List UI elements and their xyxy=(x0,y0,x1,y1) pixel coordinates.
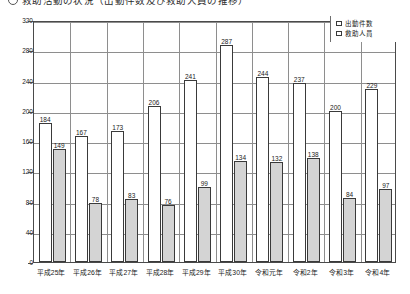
bar-value-label: 173 xyxy=(112,124,123,131)
bar-rescue: 76 xyxy=(162,205,175,262)
bar-value-label: 229 xyxy=(366,82,377,89)
legend-item[interactable]: 救助人員 xyxy=(336,29,392,38)
x-tick-label: 平成27年 xyxy=(106,269,142,277)
bar-group: 184149 xyxy=(34,22,70,262)
bar-dispatch: 184 xyxy=(39,123,52,262)
legend-swatch-dispatch-icon xyxy=(336,21,342,27)
x-tick-label: 平成30年 xyxy=(215,269,251,277)
bar-value-label: 287 xyxy=(221,38,232,45)
bar-value-label: 134 xyxy=(235,154,246,161)
x-tick-label: 令和元年 xyxy=(251,269,287,277)
bar-value-label: 241 xyxy=(185,73,196,80)
legend-swatch-rescue-icon xyxy=(336,31,342,37)
legend: 出動件数救助人員 xyxy=(330,16,396,42)
x-tick-label: 令和3年 xyxy=(323,269,359,277)
legend-item[interactable]: 出動件数 xyxy=(336,19,392,28)
plot-area: 1841491677817383206762419928713424413223… xyxy=(33,21,396,263)
bar-group: 24199 xyxy=(179,22,215,262)
x-tick-label: 平成26年 xyxy=(69,269,105,277)
bar-value-label: 200 xyxy=(330,104,341,111)
bar-value-label: 84 xyxy=(346,191,353,198)
bar-value-label: 149 xyxy=(54,142,65,149)
bar-dispatch: 206 xyxy=(148,106,161,262)
legend-label: 救助人員 xyxy=(345,30,373,37)
bar-group: 17383 xyxy=(107,22,143,262)
bar-value-label: 206 xyxy=(149,99,160,106)
bar-value-label: 78 xyxy=(92,196,99,203)
bar-value-label: 244 xyxy=(258,70,269,77)
y-axis: 04080120160200240280320 xyxy=(0,0,33,294)
bar-value-label: 184 xyxy=(40,116,51,123)
bar-rescue: 83 xyxy=(125,199,138,262)
bar-dispatch: 287 xyxy=(220,45,233,262)
x-tick-label: 令和2年 xyxy=(287,269,323,277)
legend-label: 出動件数 xyxy=(345,20,373,27)
bar-value-label: 83 xyxy=(128,192,135,199)
bar-rescue: 97 xyxy=(379,189,392,262)
page-title-text: 救助活動の状況（出動件数及び救助人員の推移） xyxy=(22,0,249,6)
bar-value-label: 99 xyxy=(201,180,208,187)
x-axis: 平成25年平成26年平成27年平成28年平成29年平成30年令和元年令和2年令和… xyxy=(33,264,396,288)
bar-dispatch: 229 xyxy=(365,89,378,262)
bar-dispatch: 200 xyxy=(329,111,342,262)
bar-group: 20084 xyxy=(324,22,360,262)
bar-value-label: 97 xyxy=(382,182,389,189)
bar-rescue: 149 xyxy=(53,149,66,262)
bar-dispatch: 237 xyxy=(293,83,306,262)
x-tick-label: 平成28年 xyxy=(142,269,178,277)
bar-dispatch: 173 xyxy=(111,131,124,262)
x-tick-label: 平成29年 xyxy=(178,269,214,277)
bar-rescue: 78 xyxy=(89,203,102,262)
bar-value-label: 167 xyxy=(76,129,87,136)
bar-group: 237138 xyxy=(288,22,324,262)
bar-dispatch: 167 xyxy=(75,136,88,262)
bar-dispatch: 244 xyxy=(256,77,269,262)
bar-group: 16778 xyxy=(70,22,106,262)
page-title: 救助活動の状況（出動件数及び救助人員の推移） xyxy=(8,0,403,8)
bar-dispatch: 241 xyxy=(184,80,197,262)
bar-rescue: 134 xyxy=(234,161,247,262)
bar-value-label: 76 xyxy=(164,198,171,205)
bar-value-label: 132 xyxy=(272,155,283,162)
bar-group: 287134 xyxy=(216,22,252,262)
bar-rescue: 99 xyxy=(198,187,211,262)
x-tick-label: 平成25年 xyxy=(33,269,69,277)
x-tick-label: 令和4年 xyxy=(360,269,396,277)
bar-rescue: 132 xyxy=(270,162,283,262)
bar-group: 22997 xyxy=(361,22,397,262)
chart-page: 救助活動の状況（出動件数及び救助人員の推移） 04080120160200240… xyxy=(0,0,410,294)
bar-value-label: 138 xyxy=(308,151,319,158)
bar-group: 244132 xyxy=(252,22,288,262)
bar-rescue: 138 xyxy=(307,158,320,262)
bar-value-label: 237 xyxy=(294,76,305,83)
bar-rescue: 84 xyxy=(343,198,356,262)
bar-group: 20676 xyxy=(143,22,179,262)
